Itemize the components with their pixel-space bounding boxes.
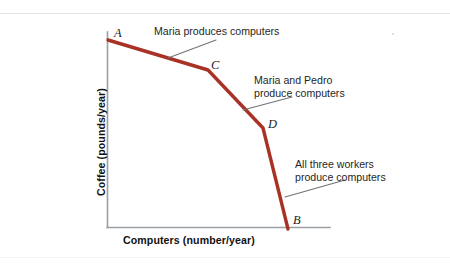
point-label-b: B (293, 214, 301, 227)
ppf-plot (0, 0, 450, 264)
leader-line-segment-ac (168, 40, 216, 58)
figure-canvas: A C D B Maria produces computers Maria a… (0, 0, 450, 264)
point-label-c: C (211, 59, 219, 72)
point-label-a: A (114, 27, 122, 40)
annotation-segment-cd-line2: produce computers (254, 87, 345, 100)
x-axis-title: Computers (number/year) (123, 234, 255, 246)
annotation-segment-db-line2: produce computers (295, 171, 386, 184)
point-label-d: D (268, 118, 277, 131)
annotation-segment-db-line1: All three workers (295, 158, 374, 171)
annotation-segment-cd-line1: Maria and Pedro (254, 74, 332, 87)
ppf-curve (108, 40, 288, 229)
y-axis-title: Coffee (pounds/year) (95, 88, 107, 196)
annotation-segment-ac: Maria produces computers (154, 25, 279, 38)
